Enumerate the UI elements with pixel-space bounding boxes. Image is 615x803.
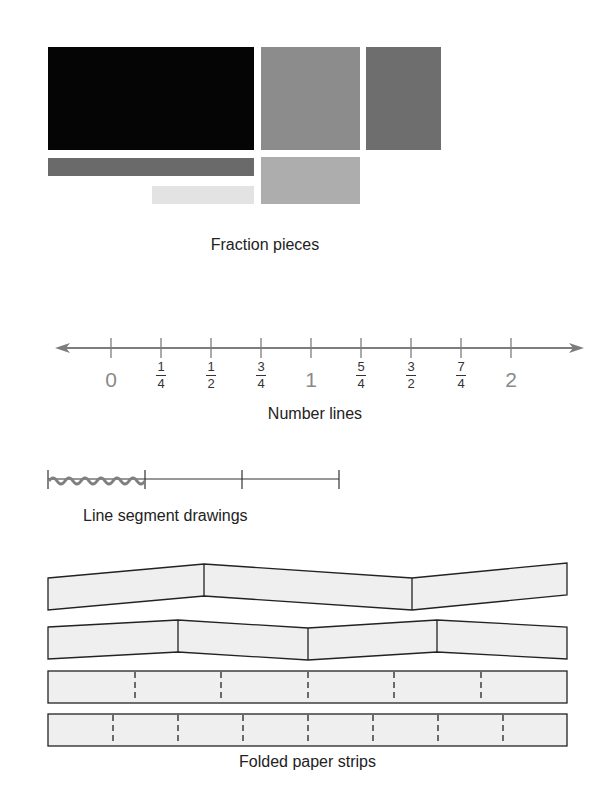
- tick-label-3-4: 34: [246, 360, 276, 391]
- tick-label-0: 0: [96, 368, 126, 392]
- paper-strip-fourths-folded: [48, 620, 567, 660]
- tick-label-1: 1: [296, 368, 326, 392]
- tick-label-1-4: 14: [146, 360, 176, 391]
- tick-label-1-2: 12: [196, 360, 226, 391]
- number-lines-caption: Number lines: [0, 405, 615, 423]
- line-segment: [48, 470, 339, 489]
- tick-label-2: 2: [496, 368, 526, 392]
- diagram-lines: [0, 0, 615, 803]
- line-segment-caption: Line segment drawings: [83, 507, 248, 525]
- number-line: [55, 338, 584, 358]
- tick-label-7-4: 74: [446, 360, 476, 391]
- tick-label-5-4: 54: [346, 360, 376, 391]
- paper-strip-sixths: [48, 671, 567, 703]
- paper-strip-eighths: [48, 714, 567, 746]
- paper-strip-thirds-folded: [48, 563, 567, 610]
- tick-label-3-2: 32: [396, 360, 426, 391]
- paper-strips-caption: Folded paper strips: [0, 753, 615, 771]
